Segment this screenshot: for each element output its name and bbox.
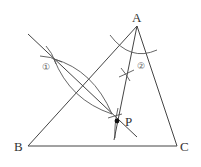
triangle-abc <box>28 26 177 146</box>
point-p-dot <box>115 119 120 124</box>
label-a: A <box>132 10 142 25</box>
label-c: C <box>180 139 189 154</box>
tick-arc-bottom <box>108 114 122 118</box>
perpendicular-bisector-line <box>28 34 137 137</box>
step-marker-2: ② <box>137 61 145 71</box>
perpendicular-bisector-construction <box>28 34 137 138</box>
step-marker-1: ① <box>42 62 50 72</box>
geometry-diagram: A B C P ① ② <box>0 0 201 167</box>
label-p: P <box>125 114 132 129</box>
label-b: B <box>14 139 23 154</box>
side-ac <box>137 26 177 146</box>
intersect-arc-2 <box>121 68 130 81</box>
